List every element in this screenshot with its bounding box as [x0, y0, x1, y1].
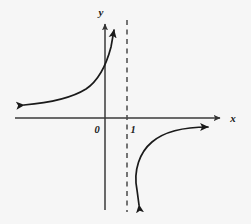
curve-left-branch — [24, 30, 114, 105]
rational-function-graph: y x 0 1 — [0, 0, 251, 224]
tick-label-one: 1 — [130, 124, 135, 135]
y-axis-label: y — [97, 6, 104, 18]
x-axis-label: x — [229, 112, 236, 124]
graph-figure: y x 0 1 — [0, 0, 251, 224]
origin-label: 0 — [94, 124, 100, 135]
curve-right-branch — [136, 127, 208, 205]
